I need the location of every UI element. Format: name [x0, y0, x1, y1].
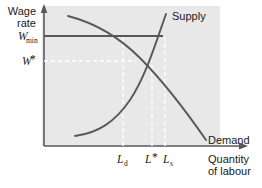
y-axis-title-line1: Wage — [8, 5, 36, 17]
y-tick-w-min-subscript: min — [26, 36, 38, 45]
plot-area-background — [42, 6, 220, 146]
x-tick-l-d-base: L — [116, 153, 123, 165]
x-tick-l-s-subscript: s — [170, 159, 173, 168]
x-tick-l-star-asterisk: * — [152, 151, 158, 163]
x-tick-l-star-base: L — [144, 153, 151, 165]
supply-curve-label: Supply — [172, 10, 206, 22]
labour-market-minimum-wage-diagram: Wage rate Quantity of labour W min W * L… — [0, 0, 262, 188]
demand-curve-label: Demand — [208, 134, 250, 146]
x-tick-label-l-star: L * — [144, 151, 158, 165]
y-tick-w-star-asterisk: * — [30, 53, 36, 65]
x-tick-l-s-base: L — [162, 153, 169, 165]
x-axis-title-line1: Quantity — [208, 153, 249, 165]
x-axis-title-line2: of labour — [208, 165, 251, 177]
x-tick-l-d-subscript: d — [124, 159, 128, 168]
y-axis-title-line2: rate — [17, 17, 36, 29]
y-tick-label-w-star: W * — [22, 53, 36, 67]
